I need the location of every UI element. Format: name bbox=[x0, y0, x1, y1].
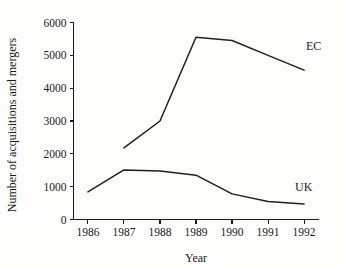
y-tick-label: 2000 bbox=[44, 148, 67, 160]
series-line-ec bbox=[124, 37, 304, 148]
x-tick-label: 1988 bbox=[148, 226, 171, 238]
y-tick-label: 0 bbox=[61, 214, 67, 226]
series-line-uk bbox=[88, 170, 304, 204]
y-tick-label: 3000 bbox=[44, 115, 67, 127]
axis-spine-left-bottom bbox=[74, 23, 319, 220]
x-axis-tick-labels: 1986198719881989199019911992 bbox=[76, 226, 315, 238]
y-tick-label: 6000 bbox=[44, 17, 67, 29]
y-tick-label: 1000 bbox=[44, 181, 67, 193]
data-series-group bbox=[88, 37, 304, 204]
x-axis-tick-marks bbox=[88, 220, 304, 224]
y-tick-label: 4000 bbox=[44, 82, 67, 94]
x-tick-label: 1990 bbox=[221, 226, 244, 238]
y-axis-tick-marks bbox=[70, 23, 74, 220]
axes-spines bbox=[74, 23, 319, 220]
chart-figure: 0100020003000400050006000 19861987198819… bbox=[0, 0, 342, 268]
x-tick-label: 1986 bbox=[76, 226, 99, 238]
series-label-uk: UK bbox=[295, 180, 313, 194]
x-tick-label: 1992 bbox=[293, 226, 316, 238]
y-tick-label: 5000 bbox=[44, 49, 67, 61]
x-tick-label: 1989 bbox=[185, 226, 208, 238]
series-inline-labels: ECUK bbox=[295, 39, 321, 193]
x-tick-label: 1991 bbox=[257, 226, 280, 238]
y-axis-title: Number of acquisitions and mergers bbox=[5, 37, 19, 212]
y-axis-tick-labels: 0100020003000400050006000 bbox=[44, 17, 67, 226]
x-axis-title: Year bbox=[185, 251, 207, 265]
x-tick-label: 1987 bbox=[112, 226, 135, 238]
line-chart: 0100020003000400050006000 19861987198819… bbox=[0, 0, 342, 268]
series-label-ec: EC bbox=[306, 39, 321, 53]
